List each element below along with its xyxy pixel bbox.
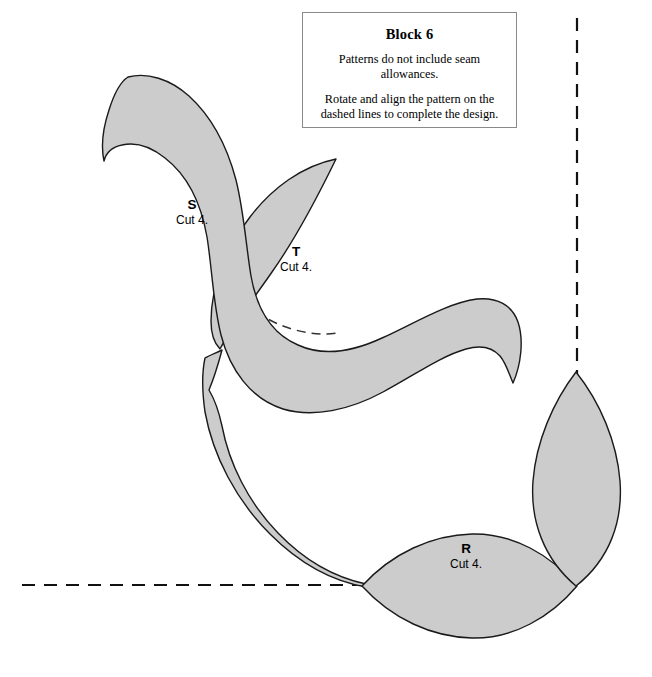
piece-label-cut-T: Cut 4. [280, 260, 312, 274]
piece-label-letter-T: T [292, 244, 301, 259]
piece-label-letter-R: R [461, 541, 471, 556]
piece-label-cut-R: Cut 4. [450, 557, 482, 571]
pattern-piece-vertical-leaf [533, 372, 621, 586]
note-title: Block 6 [386, 26, 434, 43]
note-paragraph-1: Patterns do not include seam allowances. [313, 52, 506, 81]
piece-label-letter-S: S [187, 197, 196, 212]
instruction-note-box: Block 6 Patterns do not include seam all… [302, 12, 517, 128]
piece-label-cut-S: Cut 4. [176, 213, 208, 227]
pattern-canvas: S Cut 4. T Cut 4. R Cut 4. Block 6 Patte… [0, 0, 652, 677]
note-paragraph-2: Rotate and align the pattern on the dash… [313, 92, 506, 121]
